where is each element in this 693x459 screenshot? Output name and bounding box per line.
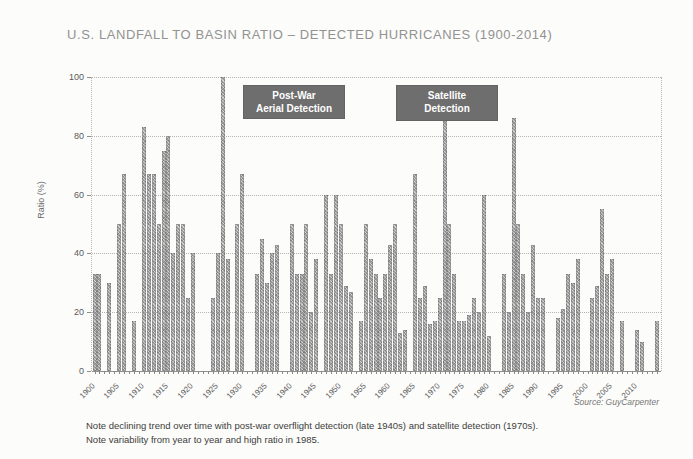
x-tick-1965 <box>415 371 416 374</box>
x-tick-1930 <box>242 371 243 374</box>
bar-1970 <box>438 298 442 372</box>
x-tick-1980 <box>489 371 490 374</box>
x-tick-1970 <box>440 371 441 374</box>
bar-1935 <box>265 283 269 371</box>
x-tick-1958 <box>380 371 381 374</box>
gridline-y-80 <box>92 136 661 137</box>
bar-1941 <box>295 274 299 371</box>
x-tick-1937 <box>277 371 278 374</box>
bar-1994 <box>556 318 560 371</box>
x-tick-1923 <box>208 371 209 374</box>
x-tick-1988 <box>528 371 529 374</box>
bar-1960 <box>388 245 392 371</box>
x-tick-1957 <box>376 371 377 374</box>
bar-1965 <box>413 174 417 371</box>
bar-1911 <box>147 174 151 371</box>
bar-1985 <box>512 118 516 371</box>
x-tick-1929 <box>237 371 238 374</box>
x-tick-1901 <box>99 371 100 374</box>
plot-area <box>91 77 662 371</box>
bar-1919 <box>186 298 190 372</box>
x-tick-1996 <box>568 371 569 374</box>
x-tick-1938 <box>282 371 283 374</box>
x-tick-1939 <box>287 371 288 374</box>
y-tick-label-0: 0 <box>58 366 84 376</box>
bar-1969 <box>433 321 437 371</box>
bar-1978 <box>477 312 481 371</box>
x-tick-1934 <box>262 371 263 374</box>
x-tick-2004 <box>607 371 608 374</box>
note-line-1: Note declining trend over time with post… <box>86 419 538 433</box>
bar-2003 <box>600 209 604 371</box>
bar-1955 <box>364 224 368 371</box>
x-tick-1960 <box>390 371 391 374</box>
y-tick-label-80: 80 <box>58 131 84 141</box>
x-tick-1905 <box>119 371 120 374</box>
x-tick-1959 <box>385 371 386 374</box>
x-tick-1913 <box>159 371 160 374</box>
bar-1903 <box>107 283 111 371</box>
x-tick-2013 <box>652 371 653 374</box>
x-tick-1903 <box>109 371 110 374</box>
bar-2002 <box>595 286 599 371</box>
x-tick-1941 <box>297 371 298 374</box>
x-tick-1956 <box>371 371 372 374</box>
x-tick-1977 <box>474 371 475 374</box>
gridline-y-100 <box>92 77 661 78</box>
x-tick-1953 <box>356 371 357 374</box>
x-tick-1968 <box>430 371 431 374</box>
x-tick-2007 <box>622 371 623 374</box>
bar-1989 <box>531 245 535 371</box>
x-tick-1999 <box>583 371 584 374</box>
x-tick-2012 <box>647 371 648 374</box>
bar-1957 <box>374 274 378 371</box>
bar-1956 <box>369 259 373 371</box>
x-tick-1975 <box>464 371 465 374</box>
x-tick-2003 <box>602 371 603 374</box>
scanned-chart-page: U.S. LANDFALL TO BASIN RATIO – DETECTED … <box>0 0 693 459</box>
x-tick-1994 <box>558 371 559 374</box>
x-tick-1986 <box>518 371 519 374</box>
x-tick-1969 <box>435 371 436 374</box>
annotation-satellite-line2: Detection <box>424 103 470 114</box>
bar-1986 <box>516 224 520 371</box>
x-tick-1972 <box>449 371 450 374</box>
bar-1959 <box>383 274 387 371</box>
chart-title: U.S. LANDFALL TO BASIN RATIO – DETECTED … <box>67 27 667 42</box>
x-tick-1908 <box>134 371 135 374</box>
annotation-postwar-line1: Post-War <box>272 90 316 101</box>
x-tick-1921 <box>198 371 199 374</box>
bar-1947 <box>324 195 328 371</box>
bar-1998 <box>576 259 580 371</box>
x-tick-1984 <box>509 371 510 374</box>
x-tick-1918 <box>183 371 184 374</box>
bar-1995 <box>561 309 565 371</box>
x-tick-1976 <box>469 371 470 374</box>
y-tick-mark-100 <box>87 77 91 78</box>
bar-1937 <box>275 245 279 371</box>
x-tick-1945 <box>316 371 317 374</box>
x-tick-2006 <box>617 371 618 374</box>
x-tick-1995 <box>563 371 564 374</box>
x-tick-1912 <box>154 371 155 374</box>
x-tick-1915 <box>168 371 169 374</box>
annotation-satellite-line1: Satellite <box>428 90 466 101</box>
x-tick-1962 <box>400 371 401 374</box>
x-tick-1926 <box>223 371 224 374</box>
bar-1936 <box>270 253 274 371</box>
annotation-satellite-detection: Satellite Detection <box>397 86 497 120</box>
x-tick-1983 <box>504 371 505 374</box>
x-tick-1935 <box>267 371 268 374</box>
gridline-y-60 <box>92 195 661 196</box>
x-tick-1989 <box>533 371 534 374</box>
x-tick-1900 <box>95 371 96 374</box>
bar-1958 <box>378 298 382 372</box>
note-line-2: Note variability from year to year and h… <box>86 433 538 447</box>
bar-1908 <box>132 321 136 371</box>
x-tick-2009 <box>632 371 633 374</box>
x-tick-1991 <box>543 371 544 374</box>
y-tick-label-20: 20 <box>58 307 84 317</box>
x-tick-1942 <box>302 371 303 374</box>
bar-1948 <box>329 274 333 371</box>
bar-1913 <box>157 224 161 371</box>
